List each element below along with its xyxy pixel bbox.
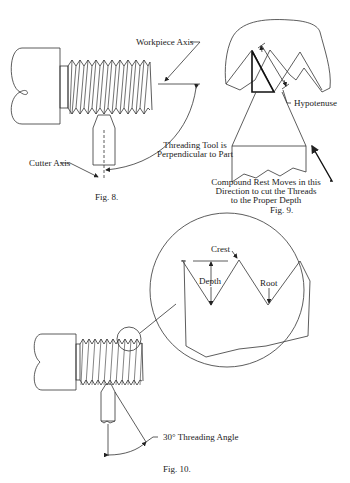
detail-circle-large: [150, 213, 304, 367]
caption-fig9: Fig. 9.: [270, 205, 293, 215]
diagram-canvas: [0, 0, 350, 483]
workpiece-head: [11, 48, 60, 124]
compound-direction-arrow: [312, 146, 332, 181]
workpiece-profile: [225, 20, 330, 92]
label-threading-tool-2: Perpendicular to Part: [140, 149, 250, 159]
label-crest: Crest: [211, 244, 230, 254]
label-compound-3: to the Proper Depth: [205, 195, 327, 205]
caption-fig10: Fig. 10.: [163, 464, 191, 474]
label-hypotenuse: Hypotenuse: [294, 98, 337, 108]
label-depth: Depth: [199, 276, 221, 286]
label-root: Root: [260, 278, 278, 288]
label-workpiece-axis: Workpiece Axis: [136, 37, 194, 47]
right-triangle: [252, 51, 274, 92]
fig10-drawing: [34, 213, 310, 456]
label-cutter-axis: Cutter Axis: [29, 158, 70, 168]
workpiece-head-small: [34, 334, 76, 390]
label-threading-angle: 30° Threading Angle: [163, 432, 238, 442]
thread-crests-top: [68, 60, 150, 66]
caption-fig8: Fig. 8.: [95, 192, 118, 202]
thread-profile-zoomed: [182, 260, 310, 357]
